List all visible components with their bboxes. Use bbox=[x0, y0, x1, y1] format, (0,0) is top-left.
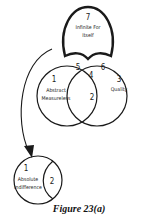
bottom-inner-number: 2 bbox=[50, 177, 55, 186]
right-circle-label: Quality bbox=[111, 86, 128, 93]
bottom-label-line2: Indifference bbox=[14, 184, 42, 190]
region-4: 4 bbox=[89, 71, 94, 80]
left-circle-number: 1 bbox=[52, 75, 57, 84]
region-6: 6 bbox=[101, 63, 106, 72]
right-circle-number: 3 bbox=[117, 75, 122, 84]
bottom-number: 1 bbox=[24, 164, 29, 173]
top-label-line2: Itself bbox=[82, 32, 94, 38]
figure-23a-diagram: 7 Infinite For Itself 1 Abstract Measure… bbox=[0, 0, 141, 216]
left-circle-label-line2: Measureless bbox=[42, 95, 71, 101]
top-number: 7 bbox=[86, 13, 91, 22]
figure-caption: Figure 23(a) bbox=[44, 203, 114, 214]
bottom-label-line1: Absolute bbox=[18, 176, 39, 182]
region-2: 2 bbox=[90, 93, 95, 102]
left-circle-label-line1: Abstract bbox=[46, 87, 66, 93]
top-label-line1: Infinite For bbox=[76, 24, 101, 30]
region-5: 5 bbox=[76, 63, 81, 72]
